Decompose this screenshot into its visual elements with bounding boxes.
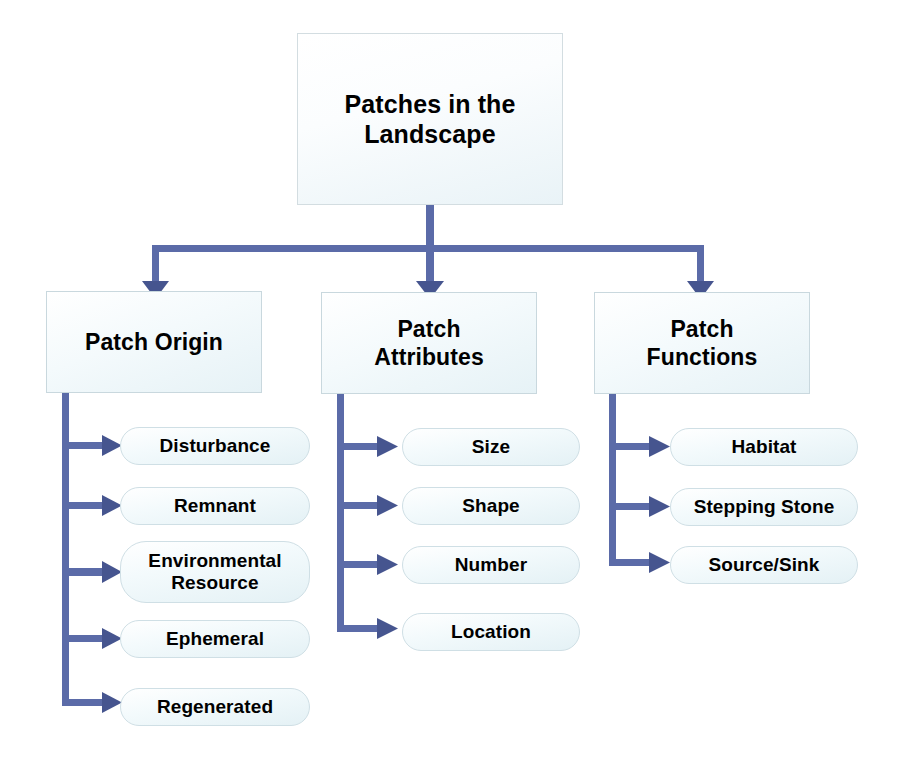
leaf-regenerated[interactable]: Regenerated (120, 688, 310, 726)
connector-root-to-bus (152, 205, 704, 283)
leaf-number[interactable]: Number (402, 546, 580, 584)
leaf-location[interactable]: Location (402, 613, 580, 651)
leaf-disturbance[interactable]: Disturbance (120, 427, 310, 465)
diagram-canvas: Patches in the Landscape Patch Origin Pa… (0, 0, 902, 778)
leaf-ephemeral[interactable]: Ephemeral (120, 620, 310, 658)
connector-patch-attributes-spine (337, 394, 398, 639)
leaf-stepping-stone[interactable]: Stepping Stone (670, 488, 858, 526)
leaf-shape[interactable]: Shape (402, 487, 580, 525)
leaf-source-sink[interactable]: Source/Sink (670, 546, 858, 584)
node-patches-in-the-landscape[interactable]: Patches in the Landscape (297, 33, 563, 205)
leaf-environmental-resource[interactable]: Environmental Resource (120, 541, 310, 603)
connector-patch-origin-spine (62, 393, 122, 713)
leaf-size[interactable]: Size (402, 428, 580, 466)
connector-patch-functions-spine (609, 394, 670, 573)
leaf-remnant[interactable]: Remnant (120, 487, 310, 525)
leaf-habitat[interactable]: Habitat (670, 428, 858, 466)
node-patch-origin[interactable]: Patch Origin (46, 291, 262, 393)
node-patch-attributes[interactable]: Patch Attributes (321, 292, 537, 394)
node-patch-functions[interactable]: Patch Functions (594, 292, 810, 394)
